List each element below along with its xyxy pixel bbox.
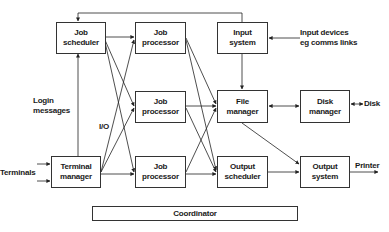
io-label: I/O bbox=[99, 122, 109, 132]
input-system-node: Input system bbox=[217, 22, 268, 54]
output-system-node: Output system bbox=[300, 156, 350, 188]
coordinator-node: Coordinator bbox=[92, 206, 298, 221]
job-scheduler-node: Job scheduler bbox=[56, 22, 106, 54]
terminals-label: Terminals bbox=[0, 168, 35, 178]
output-scheduler-node: Output scheduler bbox=[217, 156, 268, 188]
printer-label: Printer bbox=[355, 161, 379, 171]
job-processor-1-node: Job processor bbox=[135, 22, 186, 54]
job-processor-3-node: Job processor bbox=[135, 156, 186, 188]
disk-label: Disk bbox=[364, 99, 380, 109]
file-manager-node: File manager bbox=[217, 90, 268, 123]
terminal-manager-node: Terminal manager bbox=[51, 156, 101, 188]
login-messages-label: Login messages bbox=[33, 96, 70, 116]
disk-manager-node: Disk manager bbox=[300, 90, 350, 123]
input-devices-label: Input devices eg comms links bbox=[300, 28, 357, 48]
job-processor-2-node: Job processor bbox=[135, 91, 186, 123]
